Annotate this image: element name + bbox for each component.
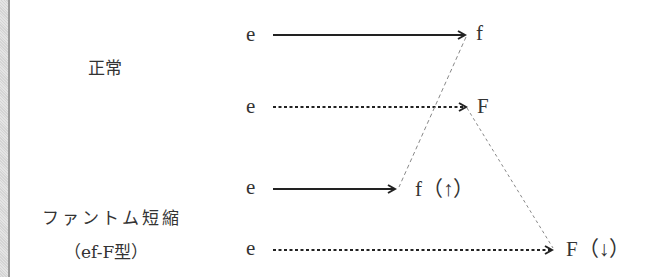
node-e-4: e: [246, 236, 255, 260]
node-F-down: F（↓）: [566, 237, 630, 261]
diagram-canvas: e f e F e f（↑） e F（↓）: [0, 0, 653, 277]
node-f-up: f（↑）: [415, 177, 475, 201]
connector-F-to-F-down: [467, 108, 553, 248]
node-F-2: F: [477, 94, 489, 118]
node-e-1: e: [246, 22, 255, 46]
node-f-1: f: [476, 21, 483, 45]
node-e-2: e: [246, 94, 255, 118]
connector-f-to-f-up: [399, 37, 466, 187]
node-e-3: e: [246, 175, 255, 199]
